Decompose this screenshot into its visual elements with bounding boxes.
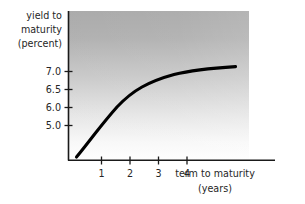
y-axis-label-unit: (percent) [18, 38, 62, 49]
x-tick-label-1: 2 [127, 168, 133, 179]
x-tick-label-0: 1 [98, 168, 104, 179]
plot-area-sheen [69, 11, 249, 160]
x-tick-label-2: 3 [155, 168, 161, 179]
y-axis-label-line1: yield to [26, 10, 62, 21]
y-tick-label-3: 5.0 [46, 120, 61, 131]
x-axis-label-unit: (years) [198, 183, 232, 194]
y-tick-label-0: 7.0 [46, 66, 61, 77]
y-tick-label-2: 6.0 [46, 102, 61, 113]
x-axis-label: term to maturity [175, 168, 255, 179]
y-tick-label-1: 6.5 [46, 84, 61, 95]
y-axis-label-line2: maturity [21, 24, 62, 35]
yield-curve-chart: 7.0 6.5 6.0 5.0 1 2 3 4 yield to maturit… [0, 0, 305, 204]
yield-curve-figure: 7.0 6.5 6.0 5.0 1 2 3 4 yield to maturit… [0, 0, 305, 204]
